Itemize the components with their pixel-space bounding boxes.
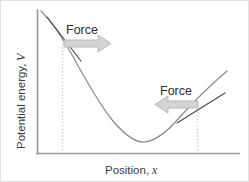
force-arrow-right-group (155, 96, 198, 113)
force-arrow-left-group (64, 35, 111, 52)
potential-energy-figure: Force Force Potential energy, V Position… (0, 0, 249, 182)
y-axis-label-text: Potential energy, (15, 64, 27, 149)
y-axis-label-symbol: V (14, 52, 28, 61)
force-label-right: Force (160, 84, 192, 98)
force-label-left: Force (66, 23, 98, 37)
arrow-right-icon (64, 35, 111, 52)
x-axis-label-text: Position, (105, 164, 149, 176)
arrow-left-icon (155, 96, 198, 113)
y-axis-label-group: Potential energy, V (14, 52, 28, 149)
x-axis-label-group: Position, x (105, 163, 158, 177)
potential-energy-plot: Force Force Potential energy, V Position… (1, 1, 249, 182)
x-axis-label-symbol: x (151, 163, 158, 177)
